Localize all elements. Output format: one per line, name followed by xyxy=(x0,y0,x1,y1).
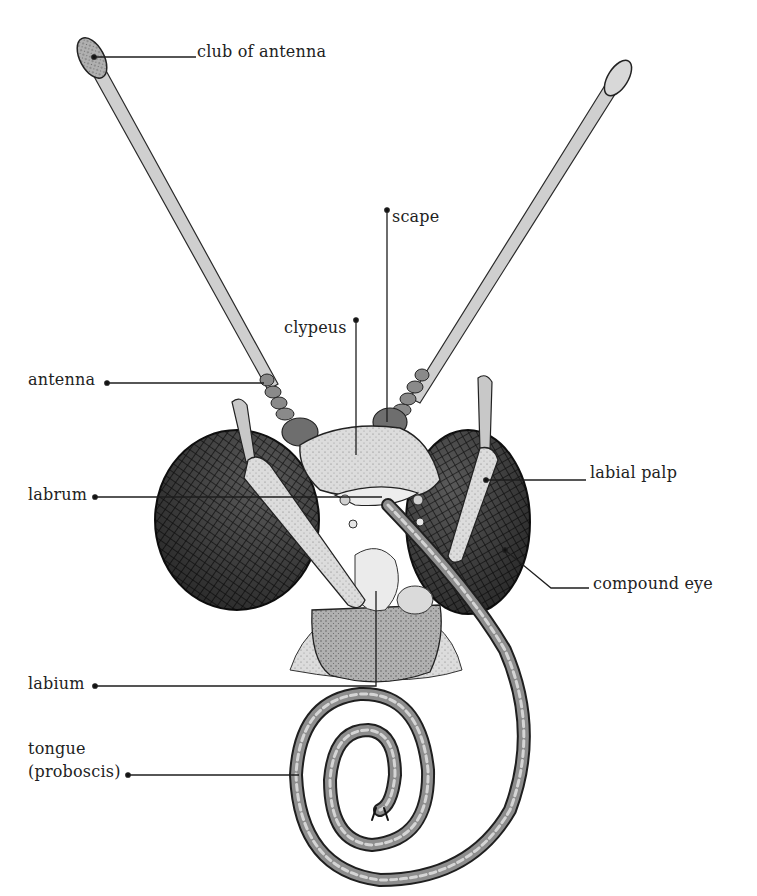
clypeus-shape xyxy=(300,426,440,497)
leader-dot-club-of-antenna xyxy=(92,55,96,59)
label-scape: scape xyxy=(392,207,439,226)
right-antenna xyxy=(373,56,637,436)
leader-dot-compound-eye xyxy=(503,548,507,552)
label-antenna: antenna xyxy=(28,370,95,389)
label-clypeus: clypeus xyxy=(284,318,347,337)
leader-dot-proboscis xyxy=(126,773,130,777)
label-labrum: labrum xyxy=(28,485,87,504)
label-club-of-antenna: club of antenna xyxy=(197,42,326,61)
label-labium: labium xyxy=(28,674,85,693)
leader-dot-labrum xyxy=(93,495,97,499)
leader-dot-antenna xyxy=(105,381,109,385)
label-proboscis: (proboscis) xyxy=(28,762,121,781)
leader-dot-labium xyxy=(93,684,97,688)
leader-dot-scape xyxy=(385,208,389,212)
leader-dot-labial-palp xyxy=(484,478,488,482)
label-labial-palp: labial palp xyxy=(590,463,677,482)
label-compound-eye: compound eye xyxy=(593,574,713,593)
butterfly-head-diagram: club of antenna scape clypeus antenna la… xyxy=(0,0,757,896)
leader-dot-clypeus xyxy=(354,318,358,322)
label-tongue: tongue xyxy=(28,739,86,758)
